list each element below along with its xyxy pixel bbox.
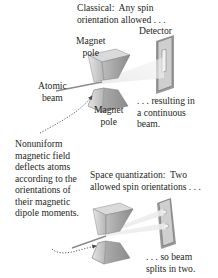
magnet-pole-top-label: Magnet pole xyxy=(76,35,105,58)
magnet-pole-bottom-label: Magnet pole xyxy=(94,104,123,127)
continuous-beam-label: . . . resulting in a continuous beam. xyxy=(137,95,195,130)
atomic-beam-label: Atomic beam xyxy=(38,80,67,103)
classical-caption: Classical: Any spin orientation allowed … xyxy=(77,2,166,25)
bottom-detector xyxy=(157,198,176,249)
nonuniform-field-explanation: Nonuniform magnetic field deflects atoms… xyxy=(15,138,79,219)
space-quantization-caption: Space quantization: Two allowed spin ori… xyxy=(90,169,201,192)
detector-label: Detector xyxy=(139,25,172,37)
bottom-magnet-lower-pole xyxy=(92,241,130,264)
split-beam-label: . . . so beam splits in two. xyxy=(146,251,195,274)
